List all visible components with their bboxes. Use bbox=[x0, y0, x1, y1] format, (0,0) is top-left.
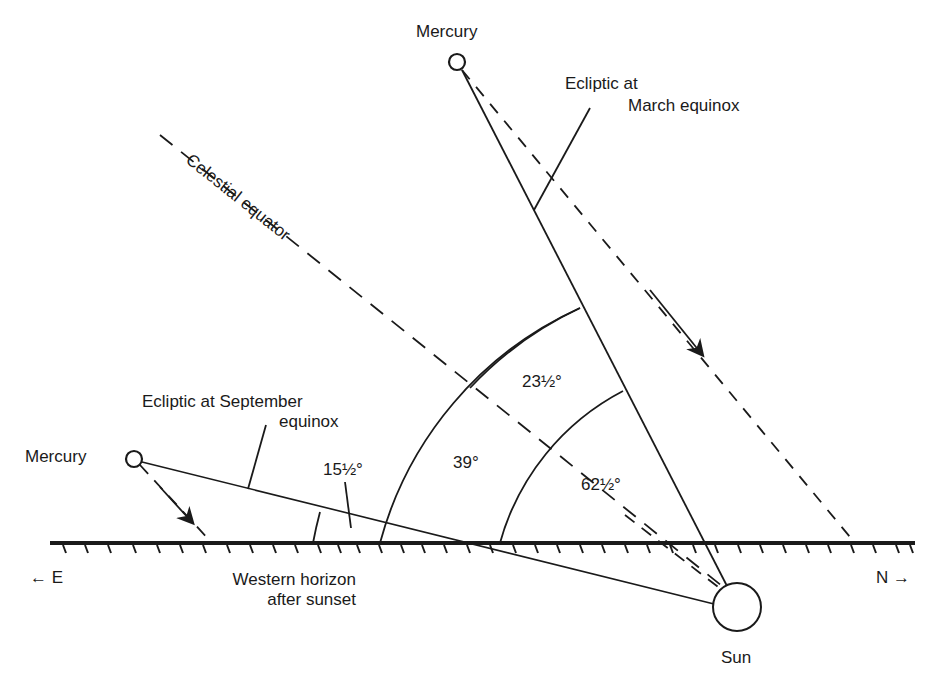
label-ecliptic-march-1: Ecliptic at bbox=[565, 74, 638, 94]
label-mercury-top: Mercury bbox=[416, 22, 477, 42]
horizon-hatching bbox=[63, 545, 913, 553]
label-north: N bbox=[876, 568, 888, 587]
mercury-left-arrow bbox=[160, 487, 190, 520]
east-direction: ← E bbox=[30, 568, 63, 588]
mercury-top-arrow bbox=[650, 290, 700, 352]
arrow-right-icon: → bbox=[893, 568, 910, 587]
arc-outer bbox=[380, 308, 580, 543]
angle-62-5: 62½° bbox=[581, 475, 621, 495]
north-direction: N → bbox=[876, 568, 910, 588]
label-horizon-1: Western horizon bbox=[198, 570, 356, 590]
arrow-left-icon: ← bbox=[30, 568, 47, 587]
mercury-top-path bbox=[462, 70, 855, 543]
leader-15-5 bbox=[345, 482, 351, 528]
label-sun: Sun bbox=[721, 648, 751, 668]
label-east: E bbox=[52, 568, 63, 587]
angle-23-5: 23½° bbox=[522, 372, 562, 392]
label-horizon-2: after sunset bbox=[198, 590, 356, 610]
angle-15-5: 15½° bbox=[323, 460, 363, 480]
diagram-canvas bbox=[0, 0, 941, 680]
label-ecliptic-september-2: equinox bbox=[279, 412, 339, 432]
mercury-left-icon bbox=[126, 451, 142, 467]
arc-small bbox=[313, 512, 320, 543]
label-ecliptic-september-1: Ecliptic at September bbox=[142, 392, 303, 412]
sun-icon bbox=[713, 583, 761, 631]
label-mercury-left: Mercury bbox=[25, 447, 86, 467]
ecliptic-march-line bbox=[462, 70, 727, 586]
leader-september bbox=[248, 425, 266, 489]
arc-middle bbox=[500, 391, 623, 543]
angle-39: 39° bbox=[453, 453, 479, 473]
leader-march bbox=[534, 108, 590, 210]
label-ecliptic-march-2: March equinox bbox=[628, 96, 740, 116]
mercury-top-icon bbox=[449, 54, 465, 70]
